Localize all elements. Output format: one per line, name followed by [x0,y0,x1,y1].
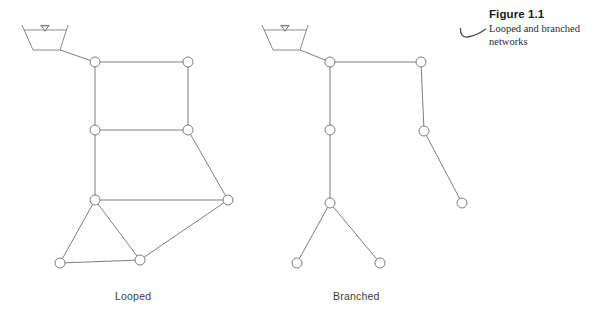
caption-title: Figure 1.1 [489,7,607,21]
caption-body: Looped and branched networks [489,23,607,48]
junction-node-L4 [183,125,193,135]
edge-L8-L6 [140,200,228,260]
junction-node-B3 [325,125,335,135]
edge-B4-B6 [424,131,462,203]
edges-layer [60,50,462,263]
edge-L4-L6 [188,130,228,200]
junction-node-L5 [90,195,100,205]
edge-B2-B4 [421,62,424,131]
reservoirs-layer [22,25,308,50]
edge-B5-B8 [330,203,380,263]
network-label-branched: Branched [333,290,380,302]
edge-L5-L8 [95,200,140,260]
junction-node-L7 [55,258,65,268]
edge-B5-B7 [297,203,330,263]
figure-caption: Figure 1.1 Looped and branched networks [489,7,607,48]
edge-reservoir-L1 [60,50,95,62]
edge-L7-L8 [60,260,140,263]
junction-node-L2 [183,57,193,67]
reservoir-looped [22,25,68,50]
junction-node-B6 [457,198,467,208]
junction-node-L1 [90,57,100,67]
reservoir-branched [262,25,308,50]
junction-node-B1 [325,57,335,67]
edge-L5-L7 [60,200,95,263]
junction-node-B2 [416,57,426,67]
network-diagram-canvas [0,0,612,322]
nodes-layer [55,57,467,268]
figure-root: Looped Branched Figure 1.1 Looped and br… [0,0,612,322]
network-label-looped: Looped [115,290,151,302]
junction-node-L3 [90,125,100,135]
junction-node-L8 [135,255,145,265]
junction-node-L6 [223,195,233,205]
junction-node-B8 [375,258,385,268]
curved-swoosh-icon [459,26,487,42]
junction-node-B4 [419,126,429,136]
junction-node-B7 [292,258,302,268]
junction-node-B5 [325,198,335,208]
